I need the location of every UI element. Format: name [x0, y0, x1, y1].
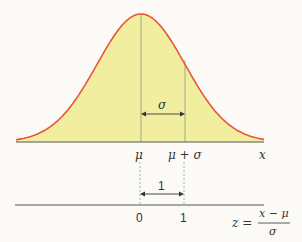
normal-distribution-diagram	[0, 0, 302, 242]
unit-label: 1	[158, 180, 165, 192]
sigma-label: σ	[158, 99, 166, 111]
mean-plus-sigma-tick-label: μ + σ	[168, 149, 202, 161]
x-axis-label: x	[259, 149, 266, 161]
formula-denominator: σ	[269, 226, 277, 237]
formula-numerator: x − μ	[259, 208, 289, 219]
z-zero-tick-label: 0	[136, 212, 143, 224]
mean-tick-label: μ	[135, 149, 143, 161]
formula-lhs: z =	[232, 217, 252, 229]
z-one-tick-label: 1	[180, 212, 187, 224]
